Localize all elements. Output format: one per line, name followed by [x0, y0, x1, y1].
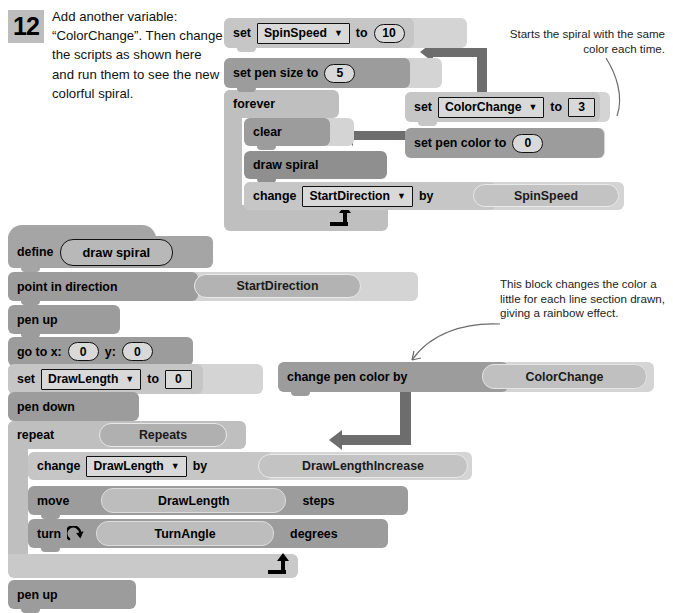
set-drawlength-block[interactable]: set DrawLength ▼ to 0 — [8, 364, 203, 394]
turn-label: turn — [37, 527, 61, 541]
draw-spiral-label: draw spiral — [253, 158, 318, 172]
pen-down-label: pen down — [17, 400, 75, 414]
drawlength-value-input[interactable]: 0 — [165, 370, 192, 389]
pointer-arrow-to-repeat-body — [320, 392, 420, 456]
spinspeed-value-input[interactable]: 10 — [374, 24, 405, 43]
set-label: set — [414, 100, 432, 114]
pen-down-block[interactable]: pen down — [8, 392, 139, 421]
change-drawlength-block[interactable]: change DrawLength ▼ by — [28, 452, 272, 480]
turn-right-icon — [67, 526, 84, 542]
chevron-down-icon: ▼ — [528, 103, 537, 112]
chevron-down-icon: ▼ — [334, 29, 343, 38]
drawlength-variable-dropdown[interactable]: DrawLength ▼ — [41, 369, 141, 390]
change-label: change — [253, 189, 296, 203]
set-spinspeed-block[interactable]: set SpinSpeed ▼ to 10 — [224, 18, 414, 48]
by-label: by — [419, 189, 433, 203]
clear-block[interactable]: clear — [244, 118, 330, 146]
forever-label: forever — [233, 97, 275, 111]
annotation-start-color: Starts the spiral with the same color ea… — [505, 27, 665, 56]
colorchange-variable-oval[interactable]: ColorChange — [482, 364, 647, 389]
go-to-x-label: go to x: — [17, 345, 62, 359]
change-pen-color-by-label: change pen color by — [287, 370, 408, 384]
repeat-block-bottom-bar — [8, 554, 298, 578]
drawlength-variable-dropdown-2[interactable]: DrawLength ▼ — [86, 456, 186, 477]
set-label: set — [233, 26, 251, 40]
set-pen-color-label: set pen color to — [414, 136, 506, 150]
set-colorchange-block[interactable]: set ColorChange ▼ to 3 — [405, 92, 600, 122]
loop-arrow-icon — [268, 556, 288, 574]
set-pen-size-block[interactable]: set pen size to 5 — [224, 58, 410, 88]
define-draw-spiral-block[interactable]: define draw spiral — [8, 236, 213, 268]
drawlength-variable-oval[interactable]: DrawLength — [101, 488, 286, 513]
drawlengthincrease-variable-oval[interactable]: DrawLengthIncrease — [258, 454, 468, 478]
startdirection-variable-oval[interactable]: StartDirection — [194, 274, 361, 298]
change-pen-color-by-block[interactable]: change pen color by — [278, 362, 508, 392]
go-to-y-input[interactable]: 0 — [122, 342, 153, 361]
spinspeed-variable-dropdown[interactable]: SpinSpeed ▼ — [257, 23, 350, 44]
change-label: change — [37, 459, 80, 473]
chevron-down-icon: ▼ — [171, 462, 180, 471]
colorchange-value-input[interactable]: 3 — [568, 98, 595, 117]
steps-label: steps — [302, 494, 334, 508]
set-pen-color-block[interactable]: set pen color to 0 — [405, 128, 604, 158]
repeats-variable-oval[interactable]: Repeats — [99, 423, 227, 447]
set-pen-size-label: set pen size to — [233, 66, 318, 80]
point-in-direction-label: point in direction — [17, 280, 118, 294]
pen-up-label: pen up — [17, 313, 58, 327]
spinspeed-variable-oval[interactable]: SpinSpeed — [473, 184, 619, 207]
to-label: to — [147, 372, 159, 386]
pen-color-value-input[interactable]: 0 — [512, 134, 543, 153]
turn-block[interactable]: turn TurnAngle degrees — [28, 519, 388, 548]
define-label: define — [17, 245, 54, 259]
turnangle-variable-oval[interactable]: TurnAngle — [96, 521, 274, 546]
change-startdirection-block[interactable]: change StartDirection ▼ by — [244, 182, 496, 210]
chevron-down-icon: ▼ — [125, 375, 134, 384]
step-instruction-text: Add another variable: “ColorChange”. The… — [52, 7, 227, 103]
annotation-rainbow-effect: This block changes the color a little fo… — [500, 277, 673, 321]
dropdown-value: StartDirection — [309, 189, 390, 203]
move-block[interactable]: move DrawLength steps — [28, 486, 408, 515]
custom-block-prototype[interactable]: draw spiral — [60, 239, 174, 266]
pen-up-label: pen up — [17, 588, 58, 602]
to-label: to — [550, 100, 562, 114]
degrees-label: degrees — [290, 527, 338, 541]
startdirection-variable-dropdown[interactable]: StartDirection ▼ — [302, 186, 413, 207]
dropdown-value: ColorChange — [445, 100, 522, 114]
dropdown-value: SpinSpeed — [264, 26, 327, 40]
point-in-direction-block[interactable]: point in direction — [8, 272, 198, 301]
colorchange-variable-dropdown[interactable]: ColorChange ▼ — [438, 97, 544, 118]
draw-spiral-call-block[interactable]: draw spiral — [244, 151, 387, 179]
pen-size-value-input[interactable]: 5 — [324, 64, 355, 83]
dropdown-value: DrawLength — [48, 372, 118, 386]
repeat-label: repeat — [17, 428, 54, 442]
to-label: to — [356, 26, 368, 40]
go-to-xy-block[interactable]: go to x: 0 y: 0 — [8, 337, 193, 366]
pen-up-block-top[interactable]: pen up — [8, 305, 120, 334]
go-to-x-input[interactable]: 0 — [68, 342, 99, 361]
annotation-2-leader-line — [404, 318, 504, 368]
go-to-y-label: y: — [105, 345, 116, 359]
by-label: by — [193, 459, 207, 473]
loop-arrow-icon — [330, 208, 350, 226]
clear-label: clear — [253, 125, 282, 139]
pen-up-block-bottom[interactable]: pen up — [8, 580, 136, 609]
move-label: move — [37, 494, 69, 508]
forever-block-header[interactable]: forever — [224, 90, 339, 118]
step-number-badge: 12 — [8, 10, 44, 43]
set-label: set — [17, 372, 35, 386]
dropdown-value: DrawLength — [93, 459, 163, 473]
chevron-down-icon: ▼ — [397, 192, 406, 201]
